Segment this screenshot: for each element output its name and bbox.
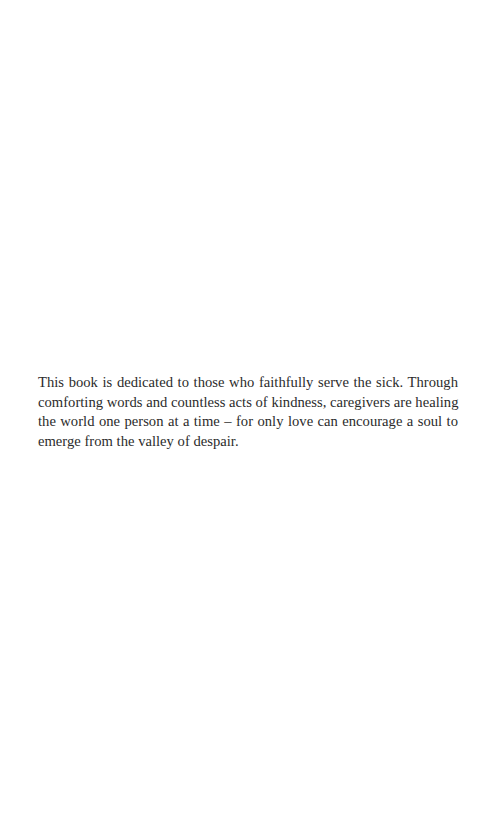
- dedication-line-2: comforting words and countless acts of k…: [38, 393, 458, 413]
- book-page: This book is dedicated to those who fait…: [0, 0, 495, 834]
- dedication-line-1: This book is dedicated to those who fait…: [38, 373, 458, 393]
- dedication-line-4: emerge from the valley of despair.: [38, 432, 458, 452]
- dedication-paragraph: This book is dedicated to those who fait…: [38, 373, 458, 451]
- dedication-line-3: the world one person at a time – for onl…: [38, 412, 458, 432]
